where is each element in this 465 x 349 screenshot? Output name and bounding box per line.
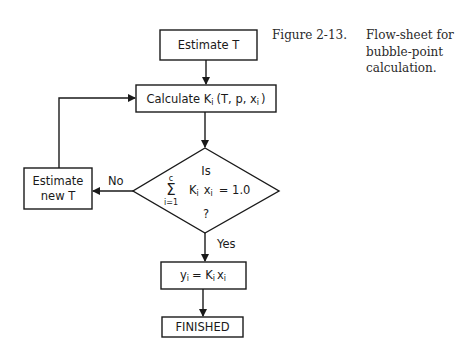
decision-question-mark: ?	[203, 207, 209, 221]
estimate-t-label: Estimate T	[178, 38, 240, 52]
caption-line-3: calculation.	[366, 61, 437, 75]
caption-line-2: bubble-point	[366, 45, 443, 59]
yes-label: Yes	[216, 237, 236, 251]
figure-number: Figure 2-13.	[272, 28, 347, 42]
caption-line-1: Flow-sheet for	[366, 28, 454, 42]
estimate-t-box: Estimate T	[160, 30, 257, 60]
calculate-k-box: Calculate Ki(T, p, xi)	[136, 85, 276, 112]
sum-lower-limit: i=1	[164, 198, 178, 207]
flowchart: Estimate T Calculate Ki(T, p, xi) Is c Σ…	[0, 0, 465, 349]
calculate-k-label: Calculate Ki(T, p, xi)	[146, 92, 265, 107]
finished-box: FINISHED	[162, 317, 243, 337]
decision-diamond: Is c Σ i=1 Kixi= 1.0 ?	[133, 148, 279, 233]
y-calc-box: yi= Kixi	[161, 262, 246, 289]
arrow-loop-back	[59, 98, 135, 168]
finished-label: FINISHED	[175, 320, 229, 334]
sum-symbol: Σ	[166, 181, 175, 199]
estimate-new-t-line2: new T	[41, 189, 76, 203]
decision-is-label: Is	[201, 164, 210, 178]
estimate-new-t-line1: Estimate	[33, 174, 84, 188]
no-label: No	[108, 174, 124, 188]
estimate-new-t-box: Estimate new T	[24, 168, 92, 209]
